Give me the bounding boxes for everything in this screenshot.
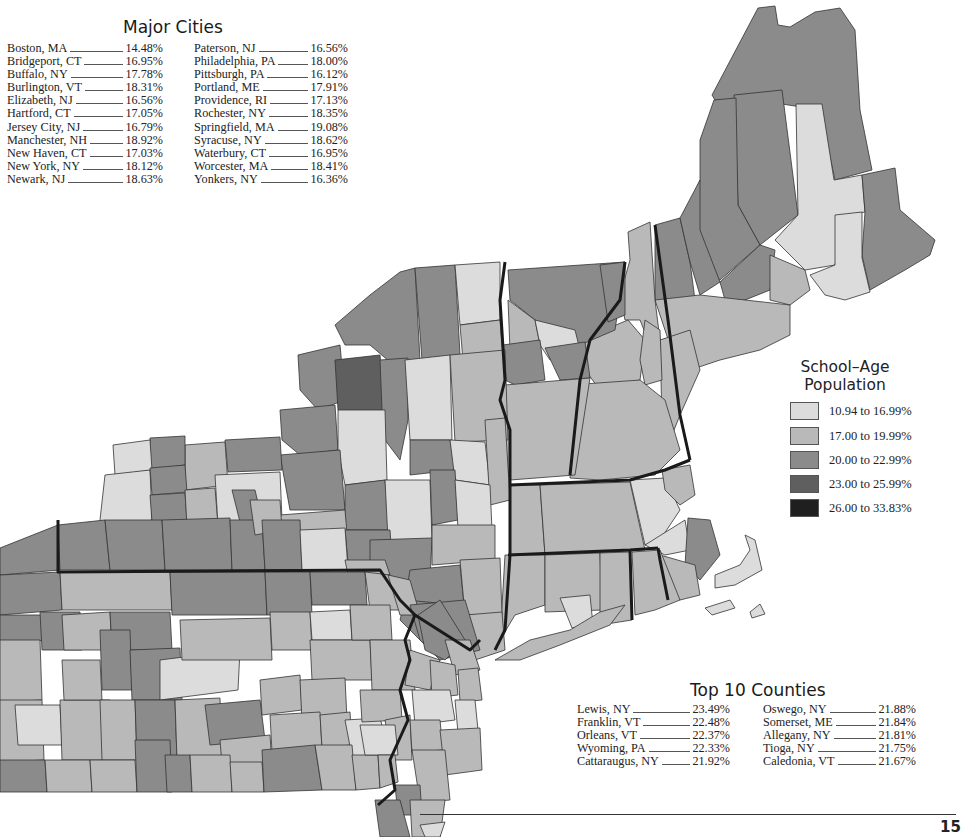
ny-allegany [105,520,165,570]
city-row: Rochester, NY18.35% [194,107,348,120]
legend-item: 10.94 to 16.99% [790,402,912,420]
leader-line [83,130,123,131]
city-row: Worcester, MA18.41% [194,160,348,173]
ny-franklin [415,265,460,360]
pa-york [262,745,322,792]
legend-swatch [790,475,819,493]
nj-cape-may [420,822,445,837]
nj-mercer [410,720,443,752]
leader-line [90,156,124,157]
legend-swatch [790,427,819,445]
legend-item: 17.00 to 19.99% [790,427,912,445]
leader-line [269,156,308,157]
top-counties-col-right: Oswego, NY21.88% Somerset, ME21.84% Alle… [763,703,916,768]
county-row: Cattaraugus, NY21.92% [577,755,730,768]
ny-madison [345,480,390,530]
leader-line [662,764,691,765]
pa-south-west [0,760,47,792]
leader-line [818,751,877,752]
ny-chautauqua [0,525,60,575]
pa-chester [352,755,380,790]
pa-snyder [260,675,302,715]
leader-line [640,738,690,739]
leader-line [830,712,877,713]
pa-lycoming [180,618,272,660]
pa-row1 [60,572,172,610]
city-row: Waterbury, CT16.95% [194,147,348,160]
ny-schoharie [430,470,458,525]
city-row: Manchester, NH18.92% [7,134,163,147]
city-row: New York, NY18.12% [7,160,163,173]
ma-nantucket [750,604,765,618]
ny-oneida [338,410,387,485]
pa-elk [100,630,132,690]
ma-marthas-vineyard [705,600,735,615]
leader-line [261,182,309,183]
ny-albany [455,480,492,530]
leader-line [68,182,123,183]
leader-line [83,169,123,170]
ny-hamilton [405,355,452,440]
city-row: Newark, NJ18.63% [7,173,163,186]
pa-allegheny [15,705,62,745]
leader-line [836,725,877,726]
map-legend: School–Age Population 10.94 to 16.99% 17… [770,358,950,394]
vt-addison [503,340,545,385]
pa-luzerne [310,640,372,680]
top-counties-title: Top 10 Counties [690,680,826,700]
vt-south [500,378,590,480]
legend-swatch [790,451,819,469]
pa-franklin [190,755,232,792]
nh-carroll [640,320,662,385]
county-row: Caledonia, VT21.67% [763,755,916,768]
city-row: Yonkers, NY16.36% [194,173,348,186]
major-cities-col-left: Boston, MA14.48% Bridgeport, CT16.95% Bu… [7,42,163,186]
ma-berkshire [510,485,545,560]
city-row: Jersey City, NJ16.79% [7,121,163,134]
ny-orleans [150,436,185,470]
pa-sullivan [270,612,312,650]
city-row: Springfield, MA19.08% [194,121,348,134]
ny-steuben [162,518,232,570]
ny-st-lawrence [335,268,420,362]
city-row: Hartford, CT17.05% [7,107,163,120]
pa-row1d [310,572,367,605]
leader-line [278,64,308,65]
ny-otsego [385,480,432,540]
ny-wayne [225,437,282,472]
leader-line [270,103,308,104]
leader-line [265,143,309,144]
pa-indiana [62,660,102,700]
city-row: Syracuse, NY18.62% [194,134,348,147]
pa-erie [0,572,62,615]
ny-niagara [113,440,152,475]
ny-oswego [280,405,338,455]
ny-broome [300,528,348,570]
page-number: 15 [940,818,961,836]
ny-tioga [262,520,302,570]
ny-cattaraugus [58,520,110,570]
maine-washington [862,168,935,290]
pa-columbia [310,610,352,640]
ny-clinton [455,262,500,325]
pa-fulton [165,755,192,792]
leader-line [838,764,877,765]
leader-line [267,77,308,78]
pa-lackawanna [350,605,392,640]
pa-south1 [45,760,92,792]
legend-swatch [790,499,819,517]
pa-adams [230,762,264,792]
nj-essex-hudson [458,668,482,702]
city-row: New Haven, CT17.03% [7,147,163,160]
leader-line [259,51,309,52]
leader-line [85,90,123,91]
leader-line [70,51,123,52]
leader-line [278,130,309,131]
pa-montgomery [360,725,398,755]
pa-south2 [90,760,137,792]
ny-onondaga-cayuga [280,450,345,510]
pa-crawford [0,640,42,702]
pa-cambria [100,700,137,760]
top-counties-col-left: Lewis, NY23.49% Franklin, VT22.48% Orlea… [577,703,730,768]
pa-lehigh [360,690,402,722]
